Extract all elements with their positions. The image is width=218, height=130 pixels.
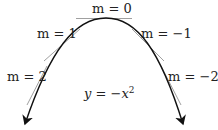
- label-m0: m = 0: [92, 2, 132, 15]
- curve-equation-label: y = −x2: [84, 86, 135, 100]
- label-m-2: m = −2: [168, 70, 218, 83]
- label-m1: m = 1: [37, 27, 77, 40]
- label-m-1: m = −1: [141, 27, 192, 40]
- label-m2: m = 2: [7, 70, 47, 83]
- parabola-diagram: [0, 0, 218, 130]
